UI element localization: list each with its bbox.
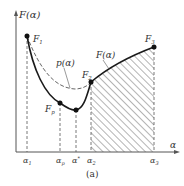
label-f2: F2 [81, 70, 92, 81]
label-f-alpha: F(α) [95, 50, 116, 60]
point-fp [58, 101, 63, 106]
tick-alpha3: α3 [150, 156, 159, 166]
x-axis-arrow-icon [174, 150, 180, 154]
point-f3 [152, 45, 157, 50]
y-axis-arrow-icon [14, 10, 18, 16]
label-f1: F1 [32, 34, 43, 45]
tick-alphap: αp [56, 156, 65, 167]
diagram-root: F(α) α F1 Fp F2 F3 p(α) F(α) α1 αp α* α2… [0, 0, 184, 186]
label-fp: Fp [44, 104, 55, 116]
point-min [74, 108, 79, 113]
tick-alpha2: α2 [87, 156, 96, 166]
y-axis-label: F(α) [18, 9, 41, 20]
x-axis-label: α [170, 140, 176, 150]
f-alpha-leader [103, 60, 109, 69]
figure-caption: (a) [86, 169, 98, 179]
tick-alpha1: α1 [23, 156, 32, 166]
diagram-canvas: F(α) α F1 Fp F2 F3 p(α) F(α) α1 αp α* α2… [0, 0, 184, 186]
point-f1 [25, 34, 30, 39]
label-p-alpha: p(α) [56, 58, 75, 68]
label-f3: F3 [144, 34, 155, 45]
tick-alphastar: α* [72, 155, 80, 165]
p-alpha-leader [64, 68, 70, 88]
